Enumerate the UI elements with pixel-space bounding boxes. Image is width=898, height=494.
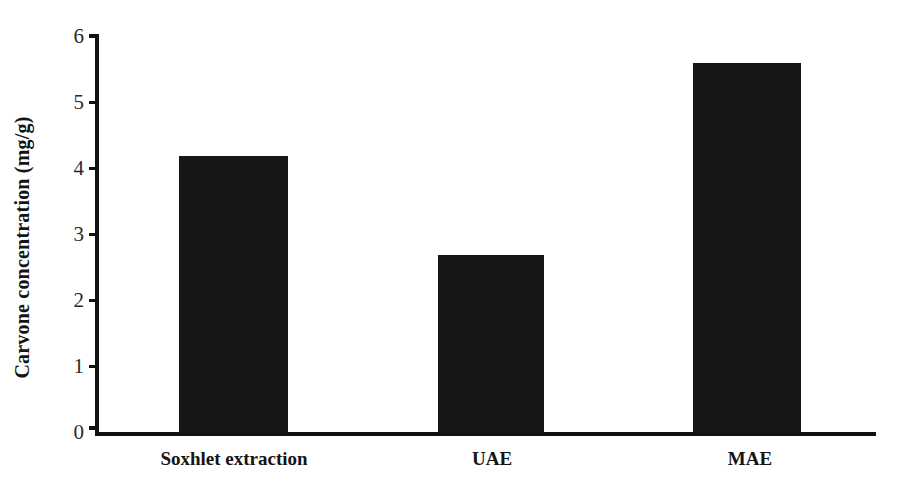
bar-soxhlet-extraction [179,156,288,433]
y-tick-label-2: 2 [60,290,84,311]
y-axis-tick-labels: 6 5 4 3 2 1 0 [52,0,84,494]
y-axis-title-text: Carvone concentration (mg/g) [11,116,34,378]
y-tick-mark-5 [89,101,97,104]
bar-uae [438,255,544,433]
y-tick-mark-1 [89,365,97,368]
y-tick-mark-2 [89,299,97,302]
x-axis-origin-cap [89,426,99,430]
y-tick-mark-6 [89,35,97,38]
y-tick-label-0: 0 [60,422,84,443]
bar-chart-figure: Carvone concentration (mg/g) 6 5 4 3 2 1… [0,0,898,494]
x-category-label-soxhlet: Soxhlet extraction [134,449,334,468]
y-tick-mark-3 [89,233,97,236]
x-category-label-uae: UAE [422,449,562,468]
y-tick-label-5: 5 [60,92,84,113]
y-tick-label-3: 3 [60,224,84,245]
x-category-label-mae: MAE [680,449,820,468]
y-tick-label-4: 4 [60,158,84,179]
y-tick-label-1: 1 [60,356,84,377]
bar-mae [693,63,801,433]
y-tick-mark-4 [89,167,97,170]
y-axis-title: Carvone concentration (mg/g) [0,0,44,494]
y-tick-label-6: 6 [60,26,84,47]
